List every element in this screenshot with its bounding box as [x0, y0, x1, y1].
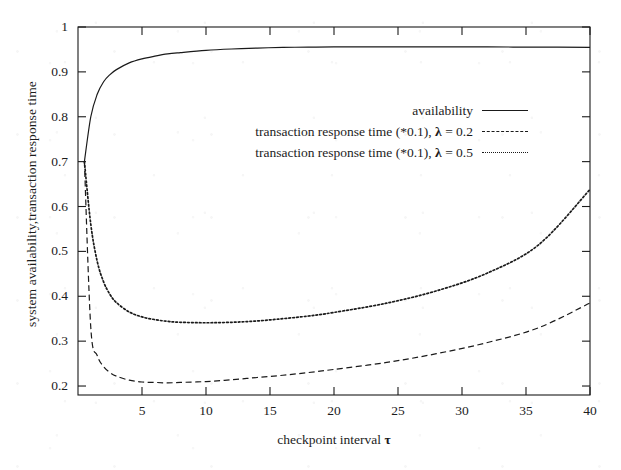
y-tick-label: 0.7: [28, 155, 68, 169]
legend-label-response-time-lambda-0-2: transaction response time (*0.1), λ = 0.…: [255, 124, 482, 140]
data-curves: [84, 47, 590, 383]
axis-ticks: [78, 27, 590, 395]
legend-line-sample-dashed: [482, 126, 528, 138]
plot-area: [0, 0, 621, 470]
y-tick-label: 0.8: [28, 110, 68, 124]
legend-item-response-time-lambda-0-2: transaction response time (*0.1), λ = 0.…: [150, 121, 528, 142]
legend-label-prefix: transaction response time (*0.1),: [255, 124, 435, 139]
legend-label-suffix: = 0.5: [442, 145, 473, 160]
lambda-symbol: λ: [435, 124, 442, 139]
chart-figure: system availability,transaction response…: [0, 0, 621, 470]
lambda-symbol: λ: [435, 145, 442, 160]
legend-label-availability: availability: [412, 103, 482, 119]
y-tick-label: 0.9: [28, 65, 68, 79]
legend-item-availability: availability: [150, 100, 528, 121]
y-tick-label: 0.3: [28, 334, 68, 348]
y-tick-label: 0.5: [28, 244, 68, 258]
axes-frame: [78, 27, 590, 395]
x-tick-label: 15: [250, 404, 290, 418]
legend-line-sample-solid: [482, 105, 528, 117]
y-tick-label: 0.6: [28, 200, 68, 214]
x-tick-label: 10: [186, 404, 226, 418]
y-tick-label: 0.2: [28, 379, 68, 393]
legend-label-prefix: transaction response time (*0.1),: [255, 145, 435, 160]
x-tick-label: 25: [378, 404, 418, 418]
legend-label-suffix: = 0.2: [442, 124, 473, 139]
x-tick-label: 35: [506, 404, 546, 418]
tau-symbol: τ: [384, 432, 390, 447]
legend: availability transaction response time (…: [150, 100, 528, 163]
x-tick-label: 20: [314, 404, 354, 418]
y-tick-label: 1: [28, 20, 68, 34]
y-tick-label: 0.4: [28, 289, 68, 303]
legend-label-response-time-lambda-0-5: transaction response time (*0.1), λ = 0.…: [255, 145, 482, 161]
x-tick-label: 30: [442, 404, 482, 418]
x-axis-title: checkpoint interval τ: [78, 432, 590, 448]
x-tick-label: 5: [122, 404, 162, 418]
series-line-2: [84, 162, 590, 383]
legend-item-response-time-lambda-0-5: transaction response time (*0.1), λ = 0.…: [150, 142, 528, 163]
legend-line-sample-dotted: [482, 147, 528, 159]
x-axis-title-text: checkpoint interval: [277, 432, 381, 447]
series-line-3: [84, 162, 590, 323]
x-tick-label: 40: [570, 404, 610, 418]
